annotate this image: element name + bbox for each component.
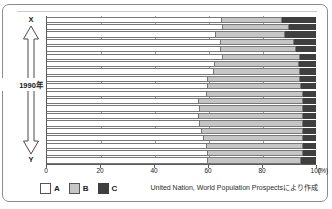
- bar-segment-c: [303, 143, 316, 149]
- bar-segment-b: [208, 157, 301, 163]
- legend-item-b: B: [69, 183, 89, 194]
- bar-segment-a: [47, 135, 204, 141]
- bar-segment-a: [47, 143, 207, 149]
- bar-segment-b: [204, 135, 302, 141]
- axis-bottom-label: Y: [14, 156, 48, 164]
- bar-segment-a: [47, 150, 208, 156]
- x-tick-label-40: 40: [150, 166, 157, 175]
- bar-segment-b: [214, 68, 300, 74]
- bar-segment-b: [199, 113, 303, 119]
- bar-segment-c: [300, 76, 316, 82]
- top-divider-rule: [17, 11, 317, 12]
- bar-segment-b: [208, 76, 299, 82]
- bar-segment-c: [285, 31, 316, 37]
- bar-segment-c: [303, 120, 316, 126]
- bar-segment-c: [303, 105, 316, 111]
- bar-row: [47, 31, 316, 38]
- bar-row: [47, 112, 316, 119]
- bar-segment-b: [215, 61, 298, 67]
- bar-segment-c: [301, 83, 316, 89]
- x-axis-tick-labels: 020406080100: [0, 166, 332, 178]
- plot-canvas: [46, 16, 316, 164]
- legend-swatch-a: [40, 183, 51, 194]
- x-tick-label-80: 80: [258, 166, 265, 175]
- bar-segment-c: [289, 24, 316, 30]
- bar-segment-b: [200, 105, 302, 111]
- bar-segment-c: [300, 68, 316, 74]
- bar-segment-c: [303, 150, 316, 156]
- x-tick-label-0: 0: [44, 166, 48, 175]
- bar-segment-b: [223, 24, 289, 30]
- bar-row: [47, 53, 316, 60]
- bar-segment-c: [303, 128, 316, 134]
- bar-row: [47, 142, 316, 149]
- bar-segment-a: [47, 91, 207, 97]
- bar-segment-a: [47, 120, 200, 126]
- bar-segment-b: [221, 39, 295, 45]
- bar-segment-c: [303, 98, 316, 104]
- bar-segment-a: [47, 105, 200, 111]
- legend-swatch-c: [98, 183, 109, 194]
- bar-row: [47, 46, 316, 53]
- bar-segment-b: [207, 91, 303, 97]
- bar-row: [47, 149, 316, 156]
- bar-segment-a: [47, 113, 199, 119]
- bar-row: [47, 38, 316, 45]
- legend-swatch-b: [69, 183, 80, 194]
- bar-segment-a: [47, 68, 214, 74]
- bar-rows: [47, 16, 316, 164]
- bar-segment-c: [294, 39, 316, 45]
- bar-row: [47, 135, 316, 142]
- bar-segment-b: [223, 54, 300, 60]
- bar-segment-a: [47, 157, 208, 163]
- legend-label-c: C: [112, 184, 118, 193]
- bar-segment-c: [300, 54, 316, 60]
- legend: ABC: [40, 181, 117, 195]
- bar-segment-c: [299, 61, 316, 67]
- bar-segment-b: [208, 83, 301, 89]
- x-tick-label-60: 60: [204, 166, 211, 175]
- bar-segment-a: [47, 83, 208, 89]
- bar-segment-c: [296, 46, 316, 52]
- bar-segment-a: [47, 61, 215, 67]
- axis-top-label: X: [14, 16, 48, 24]
- bar-row: [47, 120, 316, 127]
- legend-item-c: C: [98, 183, 118, 194]
- bar-row: [47, 68, 316, 75]
- bar-row: [47, 60, 316, 67]
- bar-segment-a: [47, 24, 223, 30]
- source-note: United Nation, World Population Prospect…: [150, 183, 318, 192]
- bar-row: [47, 97, 316, 104]
- bar-segment-a: [47, 39, 221, 45]
- bar-row: [47, 127, 316, 134]
- vertical-axis-arrow-block: X 1990年 Y: [14, 16, 48, 164]
- bar-row: [47, 105, 316, 112]
- bar-segment-b: [216, 31, 285, 37]
- bar-segment-a: [47, 98, 199, 104]
- bar-row: [47, 157, 316, 164]
- bar-row: [47, 16, 316, 23]
- legend-item-a: A: [40, 183, 60, 194]
- bar-segment-c: [301, 157, 316, 163]
- bar-row: [47, 90, 316, 97]
- bar-segment-a: [47, 46, 221, 52]
- legend-label-b: B: [83, 184, 89, 193]
- bar-segment-a: [47, 54, 223, 60]
- bar-segment-c: [303, 113, 316, 119]
- bar-segment-a: [47, 31, 216, 37]
- legend-label-a: A: [54, 184, 60, 193]
- plot-area: [46, 16, 316, 164]
- bar-segment-b: [222, 17, 283, 23]
- bar-segment-b: [202, 128, 303, 134]
- bar-row: [47, 23, 316, 30]
- bar-segment-b: [199, 98, 303, 104]
- x-tick-label-20: 20: [96, 166, 103, 175]
- bar-segment-b: [208, 150, 302, 156]
- bar-segment-a: [47, 128, 202, 134]
- bar-row: [47, 83, 316, 90]
- bar-segment-b: [207, 143, 303, 149]
- bar-segment-a: [47, 76, 208, 82]
- x-axis-unit-label: (%): [318, 166, 328, 175]
- bar-segment-c: [303, 91, 316, 97]
- bar-segment-c: [282, 17, 316, 23]
